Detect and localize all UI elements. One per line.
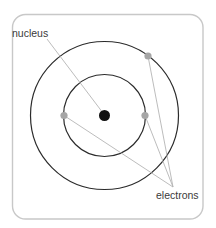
electron-inner-right [141,112,148,119]
nucleus-label: nucleus [12,27,48,39]
electrons-label: electrons [156,189,199,201]
electron-leader-line-top [148,56,173,187]
atom-diagram: nucleus electrons [0,0,216,228]
nucleus [99,110,110,121]
electron-outer-top-right [144,52,151,59]
electron-leader-line-left [64,116,173,188]
electron-inner-left [60,112,67,119]
